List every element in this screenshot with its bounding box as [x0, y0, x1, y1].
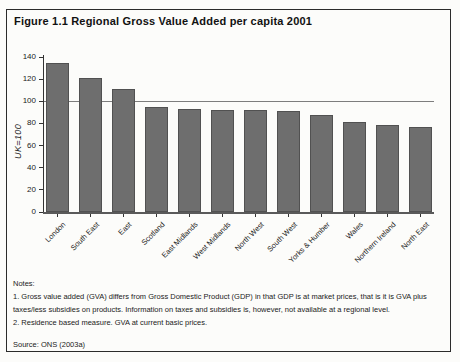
y-tick-label: 0	[6, 207, 36, 216]
notes-heading: Notes:	[13, 277, 444, 290]
x-axis-tick	[288, 214, 289, 217]
source-line: Source: ONS (2003a)	[13, 338, 444, 351]
bar-east-midlands	[178, 109, 201, 212]
y-tick-label: 40	[6, 163, 36, 172]
y-tick-label: 80	[6, 118, 36, 127]
bar-northern-ireland	[376, 125, 399, 212]
x-axis-tick	[123, 214, 124, 217]
y-axis-line	[43, 55, 44, 213]
x-axis-tick	[222, 214, 223, 217]
x-axis-tick	[189, 214, 190, 217]
y-tick-label: 20	[6, 185, 36, 194]
x-axis-tick	[387, 214, 388, 217]
y-tick-label: 120	[6, 74, 36, 83]
x-axis-tick	[90, 214, 91, 217]
bar-wales	[343, 122, 366, 212]
bar-scotland	[145, 107, 168, 212]
bar-north-east	[409, 127, 432, 212]
bar-yorks-and-humber	[310, 115, 333, 212]
figure-1-1: Figure 1.1 Regional Gross Value Added pe…	[0, 0, 460, 362]
y-tick-label: 60	[6, 141, 36, 150]
bar-london	[46, 63, 69, 212]
y-tick-label: 100	[6, 96, 36, 105]
bar-north-west	[244, 110, 267, 212]
bar-east	[112, 89, 135, 212]
y-tick-label: 140	[6, 52, 36, 61]
note-1: 1. Gross value added (GVA) differs from …	[13, 290, 444, 316]
x-axis-line	[43, 212, 434, 214]
note-2: 2. Residence based measure. GVA at curre…	[13, 316, 444, 329]
uk-100-reference-line	[44, 101, 434, 102]
figure-title: Figure 1.1 Regional Gross Value Added pe…	[14, 15, 312, 27]
notes-block: Notes: 1. Gross value added (GVA) differ…	[13, 277, 444, 351]
bar-south-west	[277, 111, 300, 212]
x-axis-tick	[255, 214, 256, 217]
x-axis-tick	[321, 214, 322, 217]
x-axis-tick	[354, 214, 355, 217]
bar-west-midlands	[211, 110, 234, 212]
x-axis-tick	[156, 214, 157, 217]
x-axis-tick	[420, 214, 421, 217]
bar-south-east	[79, 78, 102, 212]
x-axis-tick	[57, 214, 58, 217]
